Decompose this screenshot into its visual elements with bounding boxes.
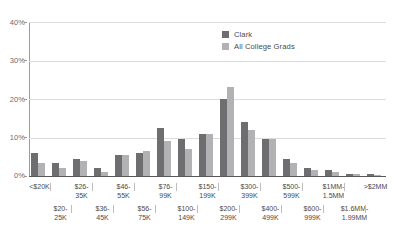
- x-label-line: 35K: [61, 191, 103, 200]
- bar-all-college-grads[interactable]: [206, 134, 213, 176]
- x-label-line: 399K: [229, 191, 271, 200]
- y-tick-mark-30: [24, 60, 27, 61]
- x-label-line: 149K: [166, 213, 208, 222]
- x-label-separator: [344, 183, 345, 191]
- x-label-line: $150-: [187, 182, 229, 191]
- light-gray-swatch-icon: [222, 43, 229, 50]
- bar-all-college-grads[interactable]: [311, 170, 318, 176]
- bar-all-college-grads[interactable]: [164, 141, 171, 176]
- bar-clark[interactable]: [178, 139, 185, 176]
- bar-clark[interactable]: [262, 139, 269, 176]
- bar-all-college-grads[interactable]: [227, 87, 234, 176]
- x-label-line: 1.99MM: [334, 213, 376, 222]
- bar-clark[interactable]: [220, 99, 227, 176]
- x-label-line: 599K: [271, 191, 313, 200]
- x-axis-label-bottom-9: $200-299K: [208, 204, 250, 222]
- legend-item-all-college-grads[interactable]: All College Grads: [222, 41, 295, 52]
- chart-legend: Clark All College Grads: [222, 29, 295, 53]
- x-axis-label-top-14: $1MM-1.5MM: [313, 182, 355, 200]
- x-label-line: $400-: [250, 204, 292, 213]
- y-tick-label-10: 10%: [0, 133, 25, 142]
- bar-clark[interactable]: [31, 153, 38, 176]
- x-axis-label-bottom-5: $56-75K: [124, 204, 166, 222]
- x-axis-label-top-8: $150-199K: [187, 182, 229, 200]
- y-tick-label-30: 30%: [0, 56, 25, 65]
- bar-clark[interactable]: [52, 163, 59, 176]
- bar-group: [73, 22, 91, 176]
- bar-group: [325, 22, 343, 176]
- y-tick-label-20: 20%: [0, 95, 25, 104]
- bar-clark[interactable]: [73, 159, 80, 176]
- bar-clark[interactable]: [367, 174, 374, 176]
- x-label-line: 499K: [250, 213, 292, 222]
- x-label-line: $500-: [271, 182, 313, 191]
- x-axis-label-top-12: $500-599K: [271, 182, 313, 200]
- bar-all-college-grads[interactable]: [80, 161, 87, 176]
- bar-group: [52, 22, 70, 176]
- bar-all-college-grads[interactable]: [248, 130, 255, 176]
- bar-clark[interactable]: [157, 128, 164, 176]
- x-label-separator: [155, 205, 156, 213]
- x-label-line: $200-: [208, 204, 250, 213]
- x-label-line: $300-: [229, 182, 271, 191]
- bar-clark[interactable]: [304, 168, 311, 176]
- bar-group: [304, 22, 322, 176]
- legend-item-clark[interactable]: Clark: [222, 29, 295, 40]
- x-label-separator: [113, 205, 114, 213]
- legend-label-clark: Clark: [234, 30, 252, 39]
- x-label-separator: [365, 205, 366, 213]
- bar-all-college-grads[interactable]: [185, 149, 192, 176]
- bar-clark[interactable]: [199, 134, 206, 176]
- x-label-separator: [134, 183, 135, 191]
- bar-all-college-grads[interactable]: [38, 163, 45, 176]
- x-axis-label-bottom-7: $100-149K: [166, 204, 208, 222]
- x-label-line: >$2MM: [355, 182, 393, 191]
- y-tick-mark-0: [24, 176, 27, 177]
- bar-all-college-grads[interactable]: [122, 155, 129, 176]
- x-label-line: 299K: [208, 213, 250, 222]
- x-label-line: $56-: [124, 204, 166, 213]
- x-label-separator: [176, 183, 177, 191]
- bar-clark[interactable]: [325, 170, 332, 176]
- x-label-line: $26-: [61, 182, 103, 191]
- bar-group: [136, 22, 154, 176]
- bar-group: [115, 22, 133, 176]
- bar-group: [199, 22, 217, 176]
- bar-group: [94, 22, 112, 176]
- bar-all-college-grads[interactable]: [374, 175, 381, 176]
- bar-clark[interactable]: [241, 122, 248, 176]
- bar-group: [346, 22, 364, 176]
- x-label-line: $1MM-: [313, 182, 355, 191]
- bar-all-college-grads[interactable]: [332, 172, 339, 176]
- bar-clark[interactable]: [115, 155, 122, 176]
- x-label-line: $600-: [292, 204, 334, 213]
- legend-label-all-college-grads: All College Grads: [234, 42, 295, 51]
- axis-baseline: [29, 176, 386, 177]
- plot-area: [29, 22, 386, 176]
- x-label-line: $46-: [103, 182, 145, 191]
- bar-all-college-grads[interactable]: [59, 168, 66, 176]
- bar-clark[interactable]: [94, 168, 101, 176]
- bar-all-college-grads[interactable]: [290, 163, 297, 176]
- bar-group: [157, 22, 175, 176]
- bar-clark[interactable]: [283, 159, 290, 176]
- bar-all-college-grads[interactable]: [269, 139, 276, 176]
- x-axis-label-bottom-15: $1.6MM-1.99MM: [334, 204, 376, 222]
- x-label-line: 199K: [187, 191, 229, 200]
- x-label-separator: [50, 183, 51, 191]
- x-label-separator: [71, 205, 72, 213]
- x-label-separator: [218, 183, 219, 191]
- bar-all-college-grads[interactable]: [143, 151, 150, 176]
- x-label-line: 1.5MM: [313, 191, 355, 200]
- bar-chart: 40% 30% 20% 10% 0% Clark All College Gra…: [0, 0, 393, 231]
- x-axis-label-top-16: >$2MM: [355, 182, 393, 191]
- y-tick-label-40: 40%: [0, 18, 25, 27]
- x-axis-label-bottom-11: $400-499K: [250, 204, 292, 222]
- bar-clark[interactable]: [346, 174, 353, 176]
- x-label-line: 999K: [292, 213, 334, 222]
- x-label-separator: [302, 183, 303, 191]
- bar-all-college-grads[interactable]: [353, 174, 360, 176]
- x-label-separator: [197, 205, 198, 213]
- bar-clark[interactable]: [136, 153, 143, 176]
- bar-all-college-grads[interactable]: [101, 172, 108, 176]
